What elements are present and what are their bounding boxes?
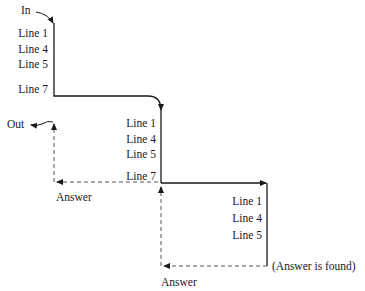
level2-line5: Line 5 (108, 148, 156, 160)
level3-line5: Line 5 (214, 229, 262, 241)
level1-line7: Line 7 (2, 83, 48, 95)
level2-line7: Line 7 (108, 170, 156, 182)
out-label: Out (7, 118, 24, 130)
level2-line4: Line 4 (108, 133, 156, 145)
level3-answer-label: Answer (161, 276, 197, 288)
level3-line1: Line 1 (214, 195, 262, 207)
level1-line1: Line 1 (2, 27, 48, 39)
in-arrow (36, 12, 53, 23)
level1-line5: Line 5 (2, 58, 48, 70)
flow-diagram (0, 0, 365, 291)
out-arrow (31, 121, 53, 125)
in-label: In (21, 4, 31, 16)
level2-answer-label: Answer (56, 191, 92, 203)
level2-line1: Line 1 (108, 117, 156, 129)
level1-flow (54, 23, 161, 110)
answer-found-note: (Answer is found) (272, 260, 356, 272)
level3-line4: Line 4 (214, 212, 262, 224)
level1-line4: Line 4 (2, 43, 48, 55)
